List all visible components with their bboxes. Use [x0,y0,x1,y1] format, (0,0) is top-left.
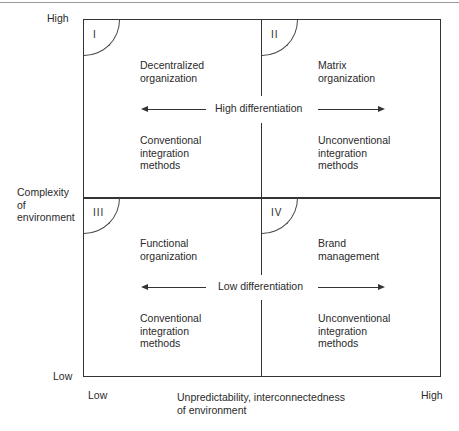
x-axis-title: Unpredictability, interconnectedness of … [177,391,345,416]
quadrant-ii-title: Matrix organization [318,59,375,84]
quadrant-iii-methods: Conventional integration methods [140,312,201,350]
x-axis-low-label: Low [88,389,107,402]
quadrant-i-methods: Conventional integration methods [140,134,201,172]
arrow-right-icon [378,106,385,112]
arrow-right-line [318,287,378,288]
x-axis-high-label: High [421,389,443,402]
quadrant-iii-title: Functional organization [140,237,197,262]
y-axis-low-label: Low [53,370,72,383]
vertical-divider-bottom [261,300,262,377]
low-differentiation-label: Low differentiation [215,280,306,292]
quadrant-ii-methods: Unconventional integration methods [318,134,390,172]
arrow-right-line [318,109,378,110]
y-axis-high-label: High [47,12,69,25]
arrow-right-icon [378,284,385,290]
quadrant-iv-methods: Unconventional integration methods [318,312,390,350]
y-axis-title: Complexity of environment [17,186,75,224]
arrow-left-line [147,287,206,288]
high-differentiation-label: High differentiation [212,102,305,114]
quadrant-iv-title: Brand management [318,237,379,262]
arrow-left-line [147,109,206,110]
top-rule [0,2,459,3]
quadrant-i-title: Decentralized organization [140,59,204,84]
